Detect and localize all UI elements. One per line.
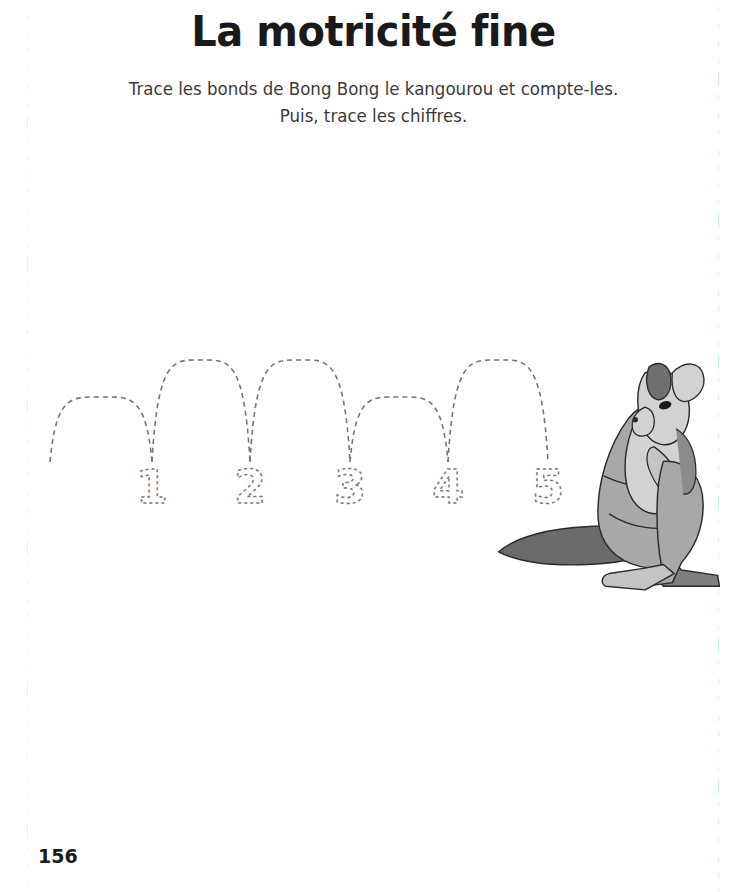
traceable-numeral-3: 3 bbox=[334, 460, 366, 514]
traceable-numeral-1: 1 bbox=[136, 460, 168, 514]
bounce-arc-2 bbox=[152, 360, 250, 462]
worksheet-page: 3297316482973164829731648297316482973164… bbox=[0, 0, 747, 892]
kangaroo-ear-far bbox=[647, 364, 671, 400]
traceable-numerals: 12345 bbox=[136, 460, 564, 514]
traceable-numeral-5: 5 bbox=[532, 460, 564, 514]
tracing-activity: 12345 bbox=[0, 0, 747, 892]
page-number: 156 bbox=[38, 845, 78, 867]
kangaroo-ear-near bbox=[672, 364, 704, 402]
bounce-arc-1 bbox=[50, 397, 152, 462]
bounce-arcs bbox=[50, 360, 548, 462]
bounce-arc-4 bbox=[350, 397, 448, 462]
traceable-numeral-2: 2 bbox=[234, 460, 266, 514]
bounce-arc-3 bbox=[250, 360, 350, 462]
traceable-numeral-4: 4 bbox=[432, 460, 464, 514]
kangaroo-nose bbox=[633, 417, 638, 422]
bounce-arc-5 bbox=[448, 360, 548, 462]
